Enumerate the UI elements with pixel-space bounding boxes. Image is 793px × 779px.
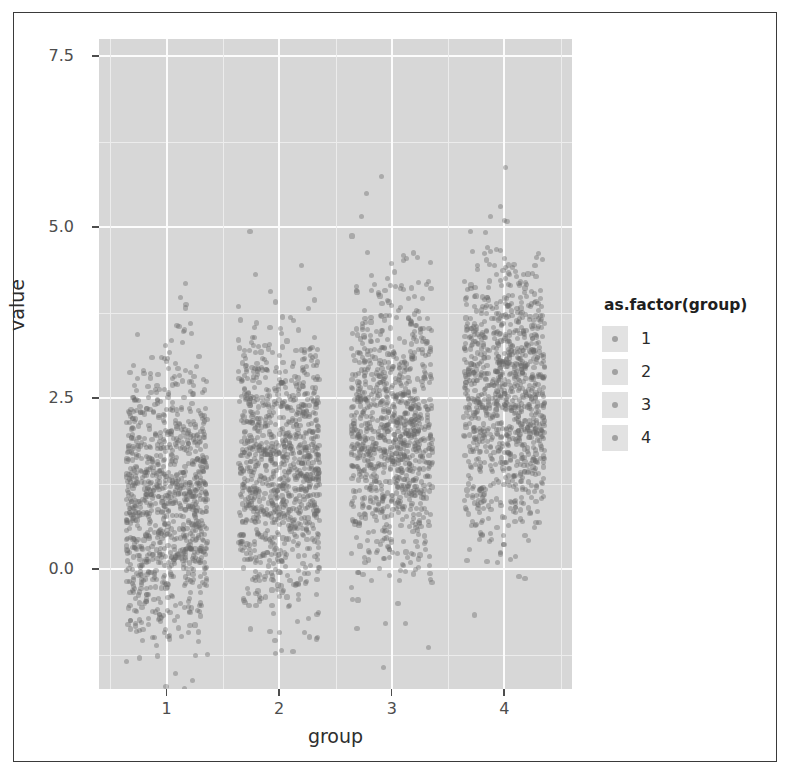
scatter-point	[479, 359, 484, 364]
scatter-point	[515, 336, 520, 341]
scatter-point	[530, 372, 535, 377]
scatter-point	[280, 401, 285, 406]
scatter-point	[267, 629, 272, 634]
scatter-point	[258, 349, 263, 354]
scatter-point	[533, 451, 538, 456]
x-axis-title: group	[99, 725, 572, 747]
scatter-point	[533, 395, 538, 400]
scatter-point	[402, 504, 407, 509]
scatter-point	[541, 404, 546, 409]
scatter-point	[256, 514, 261, 519]
scatter-point	[385, 276, 390, 281]
scatter-point	[193, 424, 198, 429]
scatter-point	[428, 260, 433, 265]
scatter-point	[400, 517, 405, 522]
scatter-point	[531, 323, 536, 328]
legend-item[interactable]: 2	[602, 355, 772, 388]
scatter-point	[350, 404, 355, 409]
scatter-point	[396, 475, 401, 480]
scatter-point	[135, 332, 140, 337]
scatter-point	[484, 303, 489, 308]
scatter-point	[473, 328, 478, 333]
scatter-point	[138, 586, 143, 591]
scatter-point	[306, 306, 311, 311]
scatter-point	[349, 476, 354, 481]
scatter-point	[349, 501, 354, 506]
scatter-point	[387, 555, 392, 560]
legend-item[interactable]: 1	[602, 322, 772, 355]
scatter-point	[130, 588, 135, 593]
scatter-point	[502, 351, 507, 356]
scatter-point	[278, 427, 283, 432]
scatter-point	[190, 462, 195, 467]
scatter-point	[464, 302, 469, 307]
scatter-point	[256, 429, 261, 434]
scatter-point	[475, 267, 480, 272]
scatter-point	[488, 214, 493, 219]
scatter-point	[482, 391, 487, 396]
scatter-point	[363, 320, 368, 325]
scatter-point	[155, 372, 160, 377]
scatter-point	[513, 510, 518, 515]
scatter-point	[250, 577, 255, 582]
legend-point-icon	[612, 435, 618, 441]
scatter-point	[304, 579, 309, 584]
scatter-point	[522, 576, 527, 581]
scatter-point	[360, 327, 365, 332]
scatter-point	[386, 439, 391, 444]
scatter-point	[354, 326, 359, 331]
scatter-point	[275, 582, 280, 587]
scatter-point	[155, 446, 160, 451]
scatter-point	[501, 542, 506, 547]
scatter-point	[375, 338, 380, 343]
scatter-point	[480, 436, 485, 441]
scatter-point	[513, 482, 518, 487]
scatter-point	[302, 460, 307, 465]
scatter-point	[204, 379, 209, 384]
scatter-point	[507, 329, 512, 334]
scatter-point	[541, 464, 546, 469]
scatter-point	[467, 432, 472, 437]
scatter-point	[402, 359, 407, 364]
legend-item[interactable]: 3	[602, 388, 772, 421]
scatter-point	[406, 296, 411, 301]
scatter-point	[198, 447, 203, 452]
scatter-point	[376, 502, 381, 507]
scatter-point	[429, 580, 434, 585]
scatter-point	[131, 363, 136, 368]
scatter-point	[538, 288, 543, 293]
scatter-point	[427, 380, 432, 385]
scatter-point	[253, 463, 258, 468]
scatter-point	[402, 339, 407, 344]
scatter-point	[296, 541, 301, 546]
scatter-point	[268, 539, 273, 544]
scatter-point	[423, 353, 428, 358]
scatter-point	[527, 314, 532, 319]
scatter-point	[519, 495, 524, 500]
scatter-point	[512, 519, 517, 524]
scatter-point	[277, 630, 282, 635]
scatter-point	[423, 547, 428, 552]
scatter-point	[300, 561, 305, 566]
scatter-point	[190, 678, 195, 683]
scatter-point	[427, 554, 432, 559]
scatter-point	[369, 288, 374, 293]
scatter-point	[283, 555, 288, 560]
y-tick-mark	[92, 226, 99, 228]
scatter-point	[170, 513, 175, 518]
scatter-point	[430, 445, 435, 450]
scatter-point	[193, 653, 198, 658]
figure-border: 0.02.55.07.5 value 1234 group as.factor(…	[13, 12, 777, 762]
scatter-point	[414, 338, 419, 343]
scatter-point	[540, 390, 545, 395]
scatter-point	[534, 431, 539, 436]
scatter-point	[365, 250, 370, 255]
scatter-point	[403, 621, 408, 626]
scatter-point	[484, 559, 489, 564]
legend-item[interactable]: 4	[602, 421, 772, 454]
scatter-point	[186, 504, 191, 509]
scatter-point	[532, 263, 537, 268]
scatter-point	[277, 370, 282, 375]
scatter-point	[494, 247, 499, 252]
scatter-point	[490, 415, 495, 420]
